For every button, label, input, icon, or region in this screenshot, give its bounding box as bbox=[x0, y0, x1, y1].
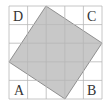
grid-diagram: D C A B bbox=[0, 0, 110, 103]
label-a: A bbox=[14, 83, 25, 98]
label-b: B bbox=[87, 83, 96, 98]
label-c: C bbox=[87, 9, 96, 24]
label-d: D bbox=[13, 9, 23, 24]
